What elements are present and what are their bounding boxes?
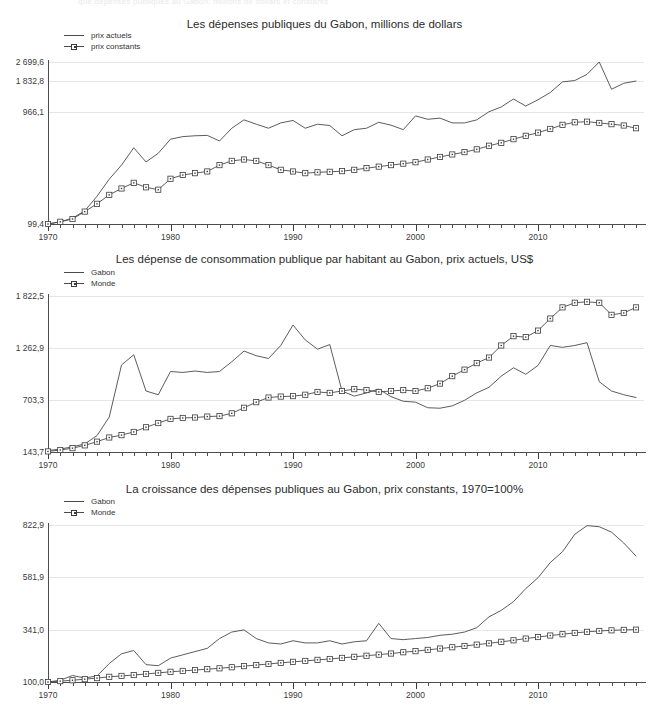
data-point-marker	[376, 652, 381, 657]
legend-item: Monde	[62, 278, 115, 289]
data-point-marker	[180, 668, 185, 673]
data-point-marker	[229, 665, 234, 670]
data-point-marker	[499, 140, 504, 145]
data-point-marker	[425, 647, 430, 652]
data-point-marker	[180, 415, 185, 420]
data-point-marker	[462, 150, 467, 155]
data-point-marker	[278, 660, 283, 665]
legend-line-icon	[62, 30, 86, 41]
data-point-marker	[621, 310, 626, 315]
data-point-marker	[192, 415, 197, 420]
data-point-marker	[254, 662, 259, 667]
data-point-marker	[474, 147, 479, 152]
data-point-marker	[45, 449, 50, 454]
data-point-marker	[633, 126, 638, 131]
data-point-marker	[143, 425, 148, 430]
data-point-marker	[450, 374, 455, 379]
y-axis-tick-label: 100,0	[23, 677, 44, 687]
data-point-marker	[425, 157, 430, 162]
data-point-marker	[584, 119, 589, 124]
x-axis-tick-label: 2010	[529, 232, 548, 242]
data-point-marker	[70, 216, 75, 221]
data-point-marker	[278, 394, 283, 399]
y-axis-tick-label: 581,9	[23, 572, 44, 582]
data-point-marker	[548, 126, 553, 131]
data-point-marker	[192, 667, 197, 672]
chart-svg	[48, 525, 649, 692]
data-point-marker	[107, 435, 112, 440]
legend-label: prix constants	[91, 41, 140, 52]
x-axis-tick-label: 1990	[284, 232, 303, 242]
data-point-marker	[327, 390, 332, 395]
data-point-marker	[450, 645, 455, 650]
data-point-marker	[535, 130, 540, 135]
data-point-marker	[45, 221, 50, 226]
legend-label: Monde	[91, 278, 115, 289]
data-point-marker	[70, 446, 75, 451]
data-point-marker	[511, 334, 516, 339]
data-point-marker	[156, 187, 161, 192]
x-axis-tick-label: 1970	[39, 690, 58, 700]
y-axis-tick-label: 1 822,5	[16, 291, 44, 301]
data-point-marker	[58, 447, 63, 452]
data-point-marker	[131, 672, 136, 677]
data-point-marker	[401, 650, 406, 655]
data-point-marker	[168, 669, 173, 674]
data-point-marker	[388, 651, 393, 656]
data-point-marker	[609, 122, 614, 127]
data-point-marker	[425, 386, 430, 391]
x-axis-tick-label: 2000	[406, 690, 425, 700]
data-point-marker	[437, 646, 442, 651]
data-point-marker	[572, 630, 577, 635]
data-point-marker	[205, 169, 210, 174]
data-point-marker	[401, 387, 406, 392]
data-point-marker	[143, 671, 148, 676]
chart-panel-consommation-habitant: Les dépense de consommation publique par…	[0, 245, 649, 477]
data-point-marker	[413, 388, 418, 393]
x-axis-tick-label: 1990	[284, 460, 303, 470]
y-axis-labels: 99,4966,11 832,82 699,6	[0, 62, 44, 224]
data-point-marker	[352, 654, 357, 659]
data-point-marker	[192, 171, 197, 176]
data-point-marker	[217, 666, 222, 671]
data-point-marker	[327, 656, 332, 661]
data-point-marker	[303, 392, 308, 397]
x-axis-tick-label: 2010	[529, 460, 548, 470]
data-point-marker	[119, 673, 124, 678]
y-axis-labels: 143,7703,31 262,91 822,5	[0, 296, 44, 452]
data-point-marker	[548, 316, 553, 321]
plot-area	[48, 296, 636, 452]
chart-legend: Gabon Monde	[62, 496, 115, 518]
legend-label: Monde	[91, 507, 115, 518]
data-point-marker	[156, 420, 161, 425]
y-axis-tick-label: 143,7	[23, 447, 44, 457]
x-axis-tick-label: 1980	[161, 232, 180, 242]
data-point-marker	[474, 642, 479, 647]
data-point-marker	[180, 172, 185, 177]
data-point-marker	[266, 661, 271, 666]
chart-svg	[48, 62, 649, 234]
data-point-marker	[462, 643, 467, 648]
chart-panel-depenses-publiques: Les dépenses publiques du Gabon, million…	[0, 0, 649, 245]
data-point-marker	[82, 443, 87, 448]
data-point-marker	[364, 387, 369, 392]
data-point-marker	[523, 133, 528, 138]
legend-item: prix constants	[62, 41, 140, 52]
data-point-marker	[254, 158, 259, 163]
data-point-marker	[82, 677, 87, 682]
data-point-marker	[499, 639, 504, 644]
data-point-marker	[486, 355, 491, 360]
data-point-marker	[597, 120, 602, 125]
legend-item: Gabon	[62, 267, 115, 278]
data-point-marker	[241, 664, 246, 669]
data-point-marker	[474, 361, 479, 366]
data-point-marker	[339, 388, 344, 393]
legend-line-icon	[62, 496, 86, 507]
data-point-marker	[388, 388, 393, 393]
data-point-marker	[241, 405, 246, 410]
data-point-marker	[523, 335, 528, 340]
y-axis-tick-label: 1 262,9	[16, 343, 44, 353]
data-point-marker	[548, 633, 553, 638]
data-point-marker	[107, 192, 112, 197]
data-point-marker	[437, 154, 442, 159]
